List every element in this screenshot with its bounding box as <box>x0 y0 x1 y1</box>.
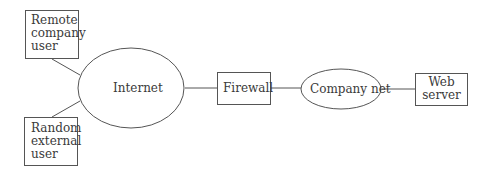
firewall-label: Firewall <box>223 82 273 95</box>
company-net-label: Company net <box>310 83 391 96</box>
random-line-3: user <box>31 148 81 161</box>
web-server-label: Web server <box>415 76 468 102</box>
web-line-2: server <box>415 89 468 102</box>
edge-random-internet <box>52 101 80 117</box>
random-user-label: Random external user <box>31 122 81 161</box>
remote-user-label: Remote company user <box>31 14 86 53</box>
edge-remote-internet <box>52 59 80 75</box>
internet-label: Internet <box>113 82 163 95</box>
remote-line-3: user <box>31 40 86 53</box>
